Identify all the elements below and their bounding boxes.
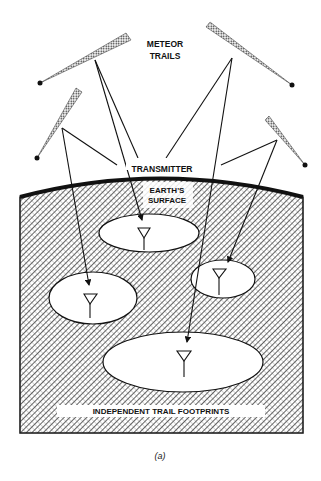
footprint-4 (103, 332, 263, 392)
meteor-trails-label: METEOR (147, 39, 183, 49)
footprints-label: INDEPENDENT TRAIL FOOTPRINTS (93, 407, 230, 416)
earth-surface-label-2: SURFACE (148, 196, 187, 205)
transmitter-label: TRANSMITTER (132, 164, 193, 174)
figure-caption: (a) (155, 451, 166, 461)
footprint-3 (191, 260, 255, 298)
meteor-trail-2 (35, 88, 83, 161)
meteor-trail-1 (38, 33, 132, 86)
footprint-2 (49, 272, 137, 324)
meteor-trails-label-2: TRAILS (150, 51, 181, 61)
meteor-burst-diagram: METEOR TRAILS TRANSMITTER EARTH'S SURFAC… (0, 0, 321, 481)
footprint-1 (99, 214, 199, 252)
meteor-trail-4 (265, 116, 308, 168)
earth-surface-label: EARTH'S (150, 186, 185, 195)
